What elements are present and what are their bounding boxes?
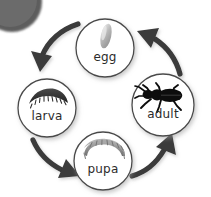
arrow-adult-to-egg xyxy=(137,28,180,74)
corner-blob-decoration xyxy=(0,0,42,32)
arrow-egg-to-larva xyxy=(31,24,78,72)
stage-node-pupa[interactable] xyxy=(74,132,132,190)
arrow-larva-to-pupa xyxy=(33,140,80,178)
stage-node-larva[interactable] xyxy=(18,79,76,137)
arrow-pupa-to-adult xyxy=(132,133,176,176)
life-cycle-diagram: egg larva pupa adult xyxy=(0,0,211,197)
stage-node-egg[interactable] xyxy=(76,19,134,77)
diagram-canvas xyxy=(0,0,211,197)
stage-node-adult[interactable] xyxy=(132,74,194,136)
